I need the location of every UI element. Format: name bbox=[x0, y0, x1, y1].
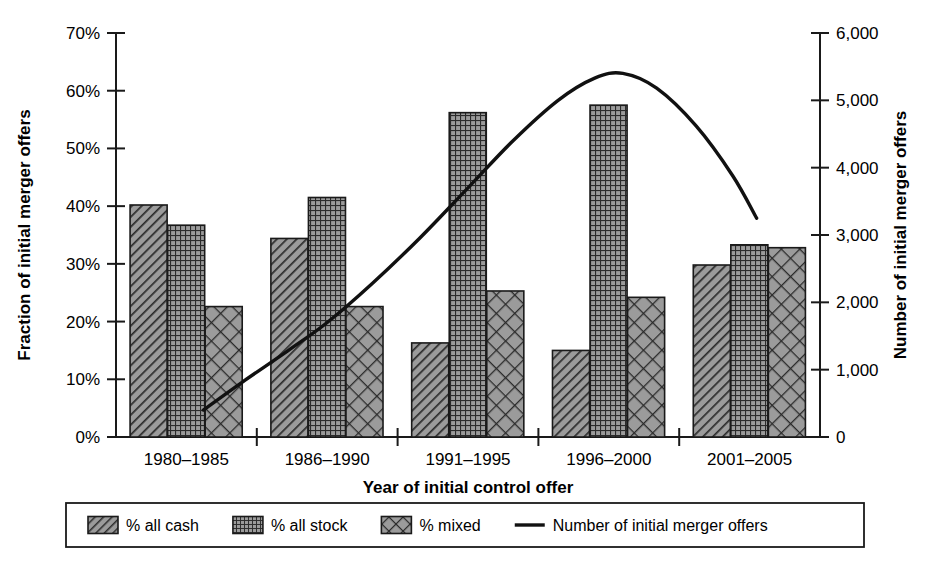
left-axis-tick-label: 20% bbox=[66, 313, 100, 332]
bar-fine-grid bbox=[590, 105, 627, 437]
left-axis-tick-label: 30% bbox=[66, 255, 100, 274]
legend-item-label: % all cash bbox=[126, 517, 199, 534]
right-axis-tick-label: 6,000 bbox=[836, 24, 879, 43]
x-axis-title: Year of initial control offer bbox=[363, 478, 574, 497]
left-axis-tick-label: 10% bbox=[66, 370, 100, 389]
bar-cross-hatch bbox=[628, 297, 665, 437]
bar-diagonal-hatch bbox=[271, 238, 308, 437]
x-axis-category-label: 1986–1990 bbox=[285, 450, 370, 469]
bar-fine-grid bbox=[168, 225, 205, 437]
bar-diagonal-hatch bbox=[130, 205, 167, 437]
left-axis-title: Fraction of initial merger offers bbox=[15, 109, 34, 360]
bar-diagonal-hatch bbox=[412, 343, 449, 437]
legend-swatch-diagonal-hatch bbox=[88, 517, 118, 534]
legend-item-label: % mixed bbox=[419, 517, 480, 534]
right-axis-tick-label: 0 bbox=[836, 428, 845, 447]
legend-item: % all cash bbox=[88, 517, 199, 535]
bar-fine-grid bbox=[731, 245, 768, 437]
right-axis-title: Number of initial merger offers bbox=[891, 111, 910, 359]
left-axis-tick-label: 60% bbox=[66, 82, 100, 101]
left-axis-tick-label: 0% bbox=[75, 428, 100, 447]
right-axis-tick-label: 2,000 bbox=[836, 293, 879, 312]
bar-cross-hatch bbox=[487, 291, 524, 437]
left-axis-tick-label: 70% bbox=[66, 24, 100, 43]
legend-item-label: Number of initial merger offers bbox=[553, 517, 768, 534]
x-axis-category-label: 2001–2005 bbox=[707, 450, 792, 469]
right-axis-tick-label: 3,000 bbox=[836, 226, 879, 245]
legend-swatch-cross-hatch bbox=[381, 517, 411, 534]
bar-cross-hatch bbox=[768, 248, 805, 437]
bar-fine-grid bbox=[308, 197, 345, 437]
right-axis-tick-label: 4,000 bbox=[836, 159, 879, 178]
legend-item: Number of initial merger offers bbox=[515, 517, 768, 534]
bar-cross-hatch bbox=[346, 307, 383, 437]
legend-item-label: % all stock bbox=[271, 517, 348, 534]
bar-fine-grid bbox=[449, 113, 486, 437]
bar-diagonal-hatch bbox=[552, 350, 589, 437]
bar-diagonal-hatch bbox=[693, 265, 730, 437]
left-axis-tick-label: 40% bbox=[66, 197, 100, 216]
left-axis-tick-label: 50% bbox=[66, 139, 100, 158]
right-axis-tick-label: 5,000 bbox=[836, 91, 879, 110]
legend-item: % all stock bbox=[233, 517, 348, 535]
x-axis-category-label: 1980–1985 bbox=[144, 450, 229, 469]
x-axis-category-label: 1991–1995 bbox=[425, 450, 510, 469]
x-axis-category-label: 1996–2000 bbox=[566, 450, 651, 469]
chart-legend: % all cash% all stock% mixedNumber of in… bbox=[66, 503, 864, 547]
chart-figure: 0%10%20%30%40%50%60%70% 01,0002,0003,000… bbox=[0, 0, 930, 566]
merger-offers-chart: 0%10%20%30%40%50%60%70% 01,0002,0003,000… bbox=[0, 0, 930, 566]
legend-swatch-fine-grid bbox=[233, 517, 263, 534]
right-axis-tick-label: 1,000 bbox=[836, 361, 879, 380]
legend-item: % mixed bbox=[381, 517, 480, 535]
bar-cross-hatch bbox=[205, 307, 242, 437]
